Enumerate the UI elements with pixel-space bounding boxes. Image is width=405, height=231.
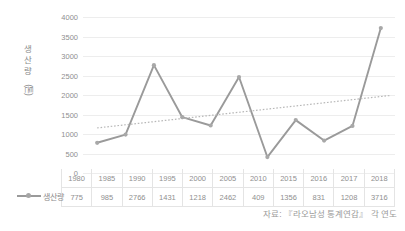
table-cell-value-8: 831 (303, 188, 333, 206)
table-cell-year-1: 1985 (91, 169, 121, 187)
data-point-2005 (237, 75, 241, 79)
table-cell-value-10: 3716 (364, 188, 395, 206)
y-tick-1500: 1500 (61, 112, 78, 120)
data-point-2000 (209, 123, 213, 127)
y-tick-500: 500 (65, 151, 78, 159)
production-line-chart: 생 산 량 (톤) 4000 3500 3000 2500 2000 1500 … (0, 0, 405, 231)
y-tick-2000: 2000 (61, 92, 78, 100)
data-point-2015 (294, 118, 298, 122)
series-markers (95, 26, 383, 159)
data-point-1985 (123, 132, 127, 136)
data-point-2018 (379, 26, 383, 30)
table-cell-value-9: 1208 (333, 188, 363, 206)
table-row-years: 1980198519901995200020052010201520162017… (61, 169, 395, 187)
data-point-2017 (350, 124, 354, 128)
table-cell-year-6: 2010 (243, 169, 273, 187)
table-cell-value-5: 2462 (212, 188, 242, 206)
table-cell-value-3: 1431 (152, 188, 182, 206)
table-row-values: 7759852766143112182462409135683112083716 (61, 187, 395, 207)
plot-area (83, 17, 395, 173)
y-axis-tick-labels: 4000 3500 3000 2500 2000 1500 1000 500 0 (48, 14, 78, 174)
table-cell-year-10: 2018 (364, 169, 395, 187)
source-note: 자료: 『라오남성 통계연감』 각 연도 (263, 207, 397, 219)
table-cell-value-0: 775 (61, 188, 91, 206)
data-table: 1980198519901995200020052010201520162017… (61, 169, 395, 205)
legend-line-marker (26, 193, 31, 198)
table-cell-year-3: 1995 (152, 169, 182, 187)
legend-label-production: 생산량 (43, 191, 64, 202)
table-cell-year-0: 1980 (61, 169, 91, 187)
table-cell-year-8: 2016 (303, 169, 333, 187)
y-tick-3000: 3000 (61, 53, 78, 61)
table-cell-year-5: 2005 (212, 169, 242, 187)
y-axis-title-char-1: 산 (24, 55, 32, 66)
table-cell-year-4: 2000 (182, 169, 212, 187)
y-tick-1000: 1000 (61, 131, 78, 139)
y-tick-3500: 3500 (61, 34, 78, 42)
data-point-1990 (152, 63, 156, 67)
table-cell-year-7: 2015 (273, 169, 303, 187)
table-cell-year-9: 2017 (333, 169, 363, 187)
series-svg (83, 17, 395, 173)
data-point-2010 (265, 155, 269, 159)
table-cell-value-4: 1218 (182, 188, 212, 206)
series-line-production (97, 28, 381, 157)
y-axis-title-char-0: 생 (24, 44, 32, 55)
y-tick-4000: 4000 (61, 14, 78, 22)
y-tick-2500: 2500 (61, 73, 78, 81)
table-cell-value-2: 2766 (122, 188, 152, 206)
y-axis-unit: (톤) (22, 84, 33, 95)
data-point-1980 (95, 141, 99, 145)
trendline-production (97, 95, 391, 128)
y-axis-title-char-2: 량 (24, 66, 32, 77)
data-point-1995 (180, 115, 184, 119)
table-cell-value-7: 1356 (273, 188, 303, 206)
table-cell-value-6: 409 (243, 188, 273, 206)
table-cell-year-2: 1990 (122, 169, 152, 187)
line-marker-icon (17, 191, 41, 201)
table-cell-value-1: 985 (91, 188, 121, 206)
data-point-2016 (322, 138, 326, 142)
y-axis-title: 생 산 량 (톤) (18, 44, 38, 95)
legend[interactable]: 생산량 (12, 187, 64, 205)
